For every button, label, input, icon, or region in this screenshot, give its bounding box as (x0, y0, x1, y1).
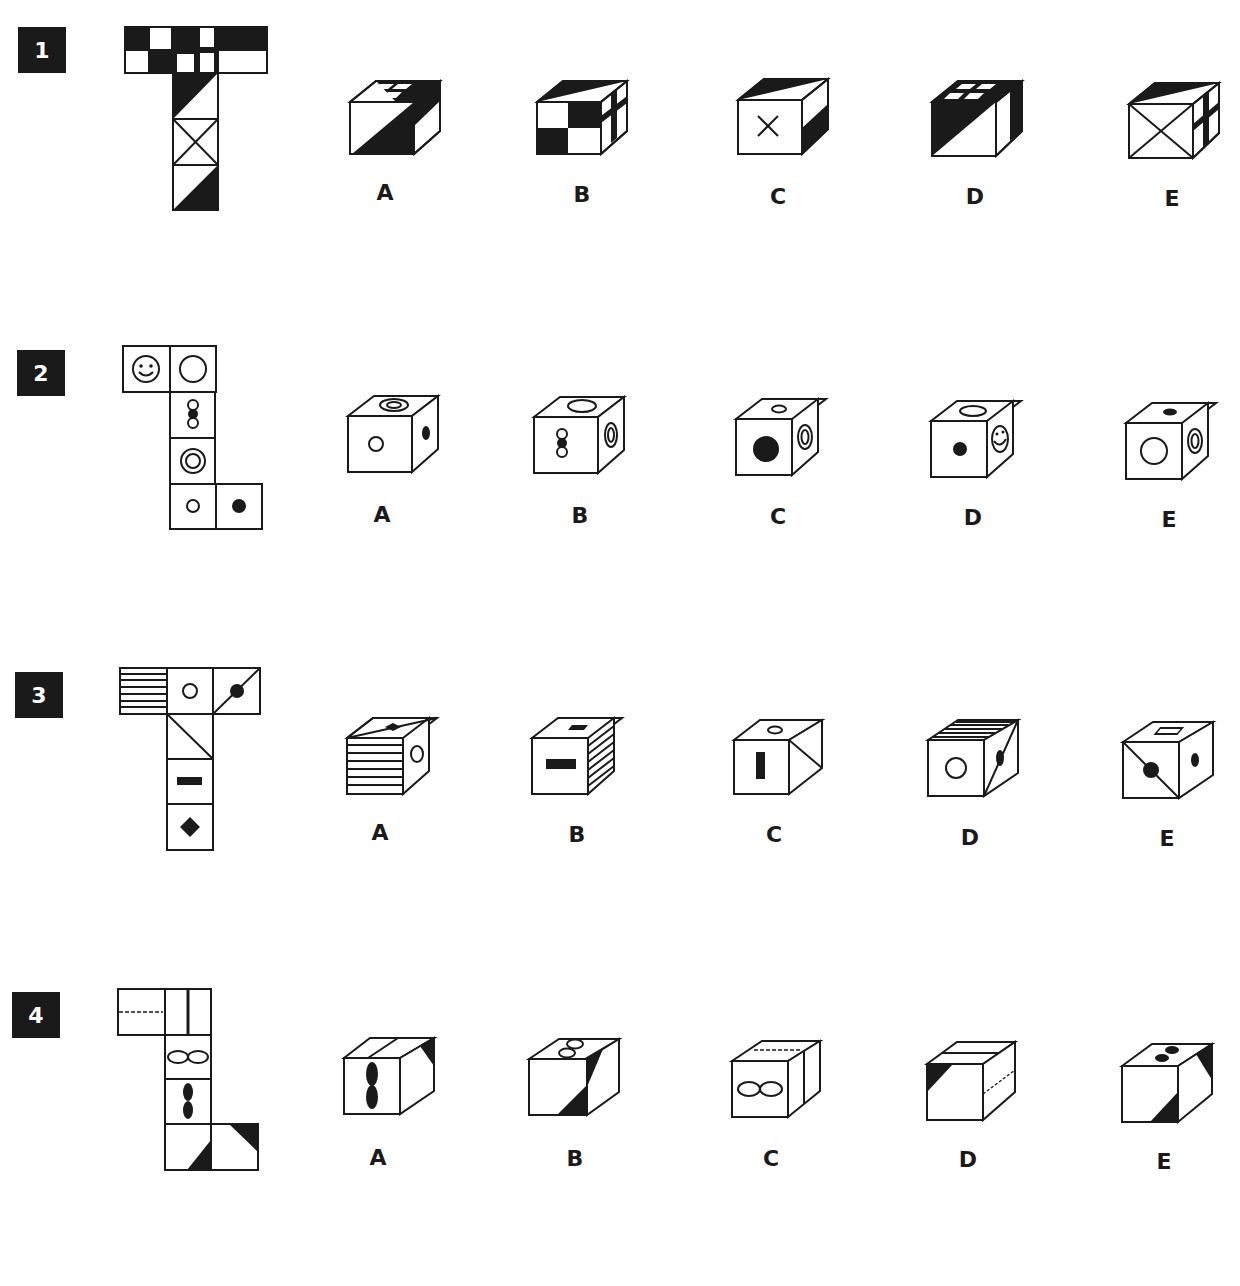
q4-option-d-cube[interactable] (925, 1040, 1020, 1122)
q2-option-a-cube[interactable] (346, 394, 441, 476)
q4-option-b-cube[interactable] (527, 1037, 622, 1119)
q1-option-e-label: E (1152, 186, 1192, 211)
q2-option-c-label: C (758, 504, 798, 529)
q3-option-e-label: E (1147, 826, 1187, 851)
question-1-badge: 1 (18, 27, 66, 73)
q4-option-b-label: B (555, 1146, 595, 1171)
q2-option-b-label: B (560, 503, 600, 528)
q1-option-e-cube[interactable] (1127, 80, 1222, 162)
q2-option-d-label: D (953, 505, 993, 530)
q3-option-c-label: C (754, 822, 794, 847)
q3-cube-net (119, 667, 264, 853)
q3-option-e-cube[interactable] (1121, 720, 1216, 802)
q3-option-a-label: A (360, 820, 400, 845)
q4-option-e-label: E (1144, 1149, 1184, 1174)
q3-option-b-label: B (557, 822, 597, 847)
q1-option-d-cube[interactable] (930, 78, 1025, 160)
q1-option-c-label: C (758, 184, 798, 209)
q4-cube-net (117, 988, 262, 1176)
q1-option-b-label: B (562, 182, 602, 207)
q1-option-b-cube[interactable] (535, 76, 630, 156)
q4-option-a-cube[interactable] (342, 1036, 437, 1118)
q1-option-d-label: D (955, 184, 995, 209)
q3-option-a-cube[interactable] (345, 716, 440, 798)
q1-option-a-cube[interactable] (348, 76, 443, 156)
q2-option-e-label: E (1149, 507, 1189, 532)
q1-option-c-cube[interactable] (736, 76, 831, 158)
q4-option-a-label: A (358, 1145, 398, 1170)
q3-option-b-cube[interactable] (530, 716, 625, 798)
question-2-badge: 2 (17, 350, 65, 396)
q3-option-c-cube[interactable] (732, 718, 827, 800)
q2-option-b-cube[interactable] (532, 395, 627, 477)
q2-option-e-cube[interactable] (1124, 401, 1219, 483)
q4-option-c-label: C (751, 1146, 791, 1171)
q4-option-e-cube[interactable] (1120, 1042, 1215, 1124)
q3-option-d-label: D (950, 825, 990, 850)
q2-cube-net (122, 345, 267, 531)
q4-option-c-cube[interactable] (730, 1039, 825, 1121)
question-3-badge: 3 (15, 672, 63, 718)
q1-cube-net (124, 26, 269, 211)
question-4-badge: 4 (12, 992, 60, 1038)
q2-option-d-cube[interactable] (929, 399, 1024, 481)
q2-option-a-label: A (362, 502, 402, 527)
q3-option-d-cube[interactable] (926, 718, 1021, 800)
q4-option-d-label: D (948, 1147, 988, 1172)
q1-option-a-label: A (365, 180, 405, 205)
q2-option-c-cube[interactable] (734, 397, 829, 479)
